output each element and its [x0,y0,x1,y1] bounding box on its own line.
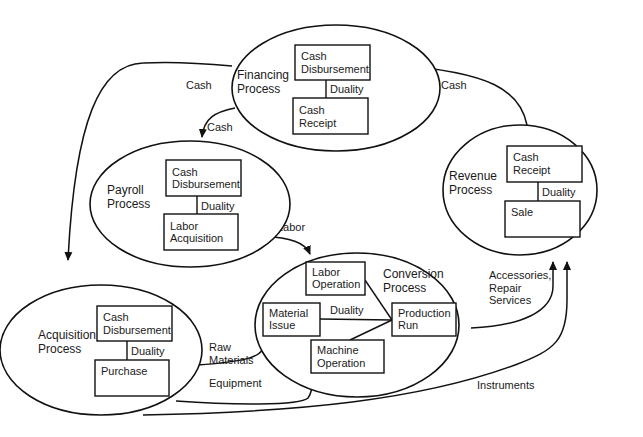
flow-label-accessories: Accessories, [489,269,551,281]
revenue-top-text-2: Receipt [513,164,550,176]
payroll-process-label-1: Payroll [107,183,144,197]
revenue-duality-label: Duality [542,186,576,198]
material-issue-text-2: Issue [269,319,295,331]
payroll-bottom-text-1: Labor [170,220,198,232]
flow-label-repair: Repair [489,282,522,294]
financing-process-label-2: Process [237,82,280,96]
financing-duality-label: Duality [330,83,364,95]
production-run-text-1: Production [398,307,451,319]
acquisition-process: Acquisition Process Cash Disbursement Du… [0,285,202,415]
financing-top-text-2: Disbursement [301,63,369,75]
financing-process: Financing Process Cash Disbursement Dual… [232,25,440,151]
acquisition-bottom-text-1: Purchase [101,365,147,377]
payroll-process-label-2: Process [107,197,150,211]
payroll-process: Payroll Process Cash Disbursement Dualit… [90,141,290,267]
financing-bottom-text-2: Receipt [299,117,336,129]
revenue-process-label-1: Revenue [449,169,497,183]
production-run-text-2: Run [398,319,418,331]
acquisition-top-text-1: Cash [103,311,129,323]
machine-operation-text-1: Machine [317,344,359,356]
revenue-process-label-2: Process [449,183,492,197]
payroll-bottom-text-2: Acquisition [170,232,223,244]
conversion-process-label-1: Conversion [383,267,444,281]
payroll-top-text-1: Cash [172,166,198,178]
acquisition-process-label-1: Acquisition [38,328,96,342]
machine-operation-text-2: Operation [317,357,365,369]
conversion-process: Conversion Process Duality Labor Operati… [255,253,459,397]
financing-top-text-1: Cash [301,50,327,62]
financing-process-label-1: Financing [237,68,289,82]
flow-label-instruments: Instruments [477,379,535,391]
revenue-process: Revenue Process Cash Receipt Duality Sal… [443,125,597,255]
revenue-top-text-1: Cash [513,151,539,163]
labor-operation-text-2: Operation [312,278,360,290]
payroll-top-text-2: Disbursement [172,178,240,190]
acquisition-top-text-2: Disbursement [103,324,171,336]
flow-label-cash-revenue: Cash [441,79,467,91]
revenue-bottom-text-1: Sale [511,206,533,218]
conversion-duality-label: Duality [330,304,364,316]
financing-bottom-text-1: Cash [299,104,325,116]
flow-label-cash-payroll: Cash [207,121,233,133]
flow-label-raw: Raw [209,341,231,353]
flow-label-cash-acquisition: Cash [186,79,212,91]
flow-label-materials: Materials [209,354,254,366]
material-issue-text-1: Material [269,307,308,319]
flow-label-equipment: Equipment [209,377,262,389]
acquisition-process-label-2: Process [38,342,81,356]
flow-label-services: Services [489,294,532,306]
conversion-process-label-2: Process [383,281,426,295]
labor-operation-text-1: Labor [312,266,340,278]
payroll-duality-label: Duality [201,200,235,212]
value-chain-diagram: Cash Cash Cash Labor Raw Materials Equip… [0,0,643,437]
acquisition-duality-label: Duality [131,345,165,357]
